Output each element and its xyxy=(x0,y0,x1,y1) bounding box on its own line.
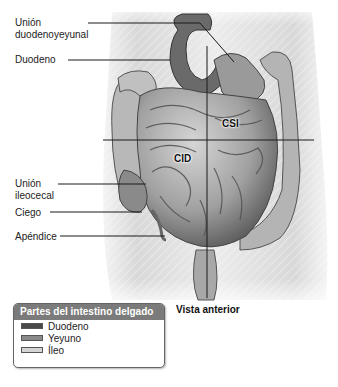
view-label: Vista anterior xyxy=(176,304,240,315)
label-union-duodenoyeyunal-1: Unión xyxy=(15,17,41,29)
label-apendice: Apéndice xyxy=(15,231,57,243)
legend-swatch-light xyxy=(21,347,43,353)
legend-item-label: Yeyuno xyxy=(48,333,81,344)
label-union-ileocecal-1: Unión xyxy=(15,178,41,190)
label-duodeno: Duodeno xyxy=(15,54,56,66)
label-ciego: Ciego xyxy=(15,207,41,219)
legend-box: Partes del intestino delgado Duodeno Yey… xyxy=(13,303,165,368)
legend-item-label: Íleo xyxy=(48,345,64,356)
legend-title: Partes del intestino delgado xyxy=(14,304,164,320)
legend-swatch-mid xyxy=(21,335,43,341)
legend-item-yeyuno: Yeyuno xyxy=(21,332,164,344)
legend-item-duodeno: Duodeno xyxy=(21,320,164,332)
legend-item-label: Duodeno xyxy=(48,321,89,332)
region-label-cid: CID xyxy=(174,153,191,164)
legend-item-ileo: Íleo xyxy=(21,344,164,356)
rectum xyxy=(193,250,217,300)
legend-swatch-dark xyxy=(21,323,43,329)
region-label-csi: CSI xyxy=(222,118,239,129)
label-union-duodenoyeyunal-2: duodenoyeyunal xyxy=(15,29,88,41)
label-union-ileocecal-2: ileocecal xyxy=(15,190,54,202)
